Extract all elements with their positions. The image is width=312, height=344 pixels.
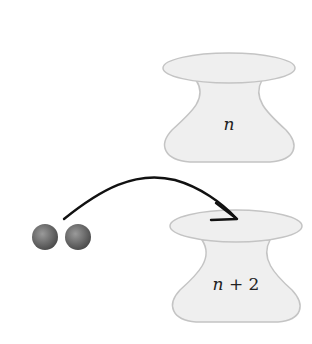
diagram-canvas: n n + 2 [0, 0, 312, 344]
top-container-label: n [224, 114, 235, 134]
bottom-container-rim [170, 210, 302, 242]
particle-icon [32, 224, 58, 250]
bottom-container-label: n + 2 [213, 274, 260, 294]
bottom-container: n + 2 [170, 210, 302, 322]
particles [32, 224, 91, 250]
label-variable: n [213, 274, 224, 294]
label-number: 2 [249, 274, 260, 294]
top-container-rim [163, 53, 295, 83]
top-container: n [163, 53, 295, 162]
particle-icon [65, 224, 91, 250]
label-operator: + [224, 274, 249, 294]
